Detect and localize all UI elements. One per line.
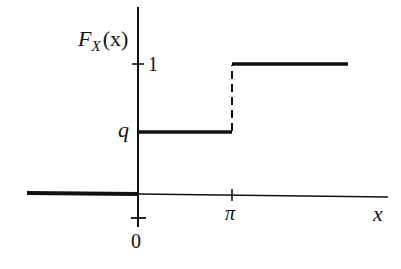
x-tick-label-pi: π <box>225 202 236 224</box>
x-tick-label-zero: 0 <box>131 230 141 252</box>
y-axis-label: FX(x) <box>77 26 128 54</box>
x-axis-label: x <box>372 201 383 226</box>
y-tick-label-q: q <box>118 117 129 142</box>
x-axis <box>138 194 388 197</box>
step-segment-zero <box>27 193 138 194</box>
cdf-chart: FX(x) 1 q 0 π x <box>0 0 401 269</box>
y-tick-label-one: 1 <box>148 53 158 75</box>
